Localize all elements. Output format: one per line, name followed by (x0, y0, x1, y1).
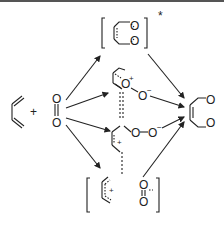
perepoxide-o-minus: O (138, 89, 147, 103)
zwitterion-o2: O (148, 126, 157, 140)
concerted-ts (102, 18, 147, 48)
product-oxygen-2: O (206, 116, 215, 130)
ts-oxygen-1: O (130, 19, 139, 33)
mechanism-diagram: + O O O O * O + O − O O − + + O O O O (0, 0, 224, 226)
product-oxygen-1: O (206, 93, 215, 107)
reaction-arrows (66, 54, 184, 177)
product-ring (190, 98, 206, 127)
perepoxide-intermediate (113, 68, 138, 120)
oxygen-atom-top: O (52, 92, 61, 106)
zwitterion-minus-charge: − (157, 123, 162, 132)
zwitterion-intermediate (112, 126, 148, 175)
radical-plus-charge: + (109, 186, 114, 195)
oxygen-atom-bottom: O (52, 116, 61, 130)
ts-oxygen-2: O (130, 34, 139, 48)
plus-sign: + (30, 105, 37, 119)
zwitterion-plus-charge: + (117, 138, 122, 147)
diene-reactant (12, 96, 24, 128)
radical-o-top: O (139, 178, 148, 192)
perepoxide-plus-charge: + (129, 74, 134, 83)
radical-o-bottom: O (139, 195, 148, 209)
zwitterion-o1: O (131, 126, 140, 140)
ts-star-mark: * (158, 9, 163, 23)
perepoxide-minus-charge: − (147, 86, 152, 95)
